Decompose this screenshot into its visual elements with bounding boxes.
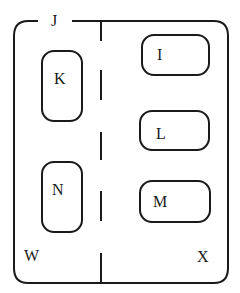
node-l-shape (140, 111, 209, 150)
node-n-label: N (52, 182, 64, 198)
node-l-label: L (156, 126, 166, 142)
region-x-label: X (197, 249, 209, 265)
outer-frame (14, 21, 228, 283)
node-i-label: I (157, 47, 162, 63)
outer-label-j: J (51, 13, 57, 29)
node-k-label: K (54, 71, 66, 87)
node-m-shape (140, 181, 210, 222)
node-m-label: M (153, 194, 167, 210)
region-w-label: W (24, 248, 39, 264)
node-i-shape (142, 35, 209, 75)
